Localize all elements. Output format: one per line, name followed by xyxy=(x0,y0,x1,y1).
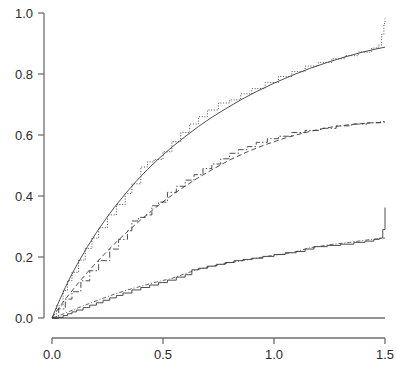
data-series-group xyxy=(52,18,385,318)
y-tick-label: 0.4 xyxy=(15,189,33,204)
y-tick-label: 0.2 xyxy=(15,250,33,265)
axes-group xyxy=(38,13,385,344)
x-tick-label: 1.0 xyxy=(265,347,283,362)
series-middle-curve-step xyxy=(52,121,385,318)
plot-canvas: 0.00.20.40.60.81.0 0.00.51.01.5 xyxy=(0,0,397,365)
y-tick-label-group: 0.00.20.40.60.81.0 xyxy=(15,6,33,326)
series-upper-curve-step xyxy=(52,18,385,318)
y-tick-label: 1.0 xyxy=(15,6,33,21)
y-tick-label: 0.0 xyxy=(15,311,33,326)
series-upper-curve-smooth xyxy=(52,47,385,318)
series-lower-curve-smooth xyxy=(52,238,385,318)
series-middle-curve-smooth xyxy=(52,122,385,318)
y-tick-label: 0.6 xyxy=(15,128,33,143)
x-tick-label-group: 0.00.51.01.5 xyxy=(43,347,394,362)
chart-figure: 0.00.20.40.60.81.0 0.00.51.01.5 xyxy=(0,0,397,365)
x-tick-label: 0.0 xyxy=(43,347,61,362)
x-tick-label: 1.5 xyxy=(376,347,394,362)
y-tick-label: 0.8 xyxy=(15,67,33,82)
x-tick-label: 0.5 xyxy=(154,347,172,362)
